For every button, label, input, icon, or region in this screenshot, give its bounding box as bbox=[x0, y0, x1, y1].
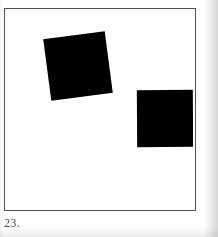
figure-caption: 23. bbox=[4, 216, 20, 230]
figure-plate: 23. bbox=[0, 0, 218, 237]
figure-frame bbox=[4, 8, 196, 211]
rotated-square-shape bbox=[43, 31, 113, 101]
upright-square-shape bbox=[137, 90, 193, 147]
